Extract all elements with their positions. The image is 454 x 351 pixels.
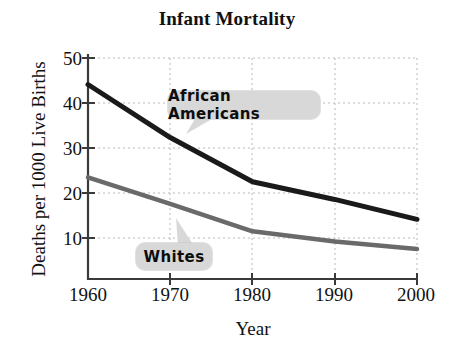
callout-tail-whites [176, 218, 194, 246]
plot-area [0, 0, 454, 351]
chart-figure: Infant Mortality Deaths per 1000 Live Bi… [0, 0, 454, 351]
callout-label-whites: Whites [136, 243, 212, 270]
callout-label-african-americans: African Americans [168, 91, 320, 119]
